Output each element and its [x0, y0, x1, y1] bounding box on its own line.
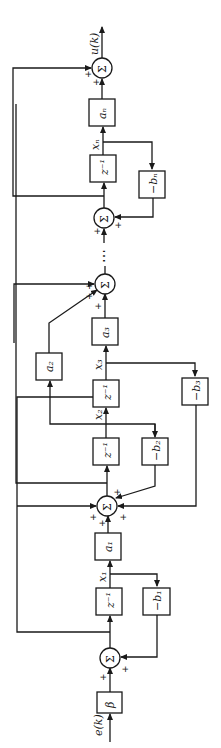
input-label: e(k)	[92, 714, 105, 736]
state-x1-label: x₁	[96, 571, 109, 582]
delay-3-label: z⁻¹	[101, 384, 114, 401]
minus-b2-label: −b₂	[150, 440, 163, 461]
plus-sign: +	[92, 227, 102, 235]
plus-sign: +	[97, 519, 107, 527]
minus-b1-label: −b₁	[151, 590, 164, 611]
output-section: Σ + + u(k)	[83, 27, 112, 86]
plus-sign: +	[84, 292, 94, 300]
state-x3-label: x₃	[92, 359, 105, 370]
x3-to-b3-line	[106, 363, 195, 376]
plus-sign: +	[83, 70, 93, 78]
stage-n: Σ + + z⁻¹ −bₙ xₙ aₙ	[13, 68, 165, 235]
delay-n-label: z⁻¹	[98, 159, 111, 176]
a1-label: a₁	[102, 541, 115, 552]
minus-bn-label: −bₙ	[147, 173, 160, 194]
minus-b3-label: −b₃	[190, 380, 203, 401]
an-label: aₙ	[96, 108, 109, 119]
bypass-into-sum3	[14, 284, 94, 343]
delay-1-label: z⁻¹	[104, 592, 117, 609]
x1-to-b1-line	[110, 574, 157, 586]
plus-sign: +	[112, 488, 122, 496]
summer-output-symbol: Σ	[96, 65, 109, 73]
summer-3-symbol: Σ	[99, 281, 112, 289]
plus-sign: +	[118, 513, 128, 521]
output-label: u(k)	[88, 33, 101, 55]
state-xn-label: xₙ	[89, 139, 102, 150]
plus-sign: +	[98, 673, 108, 681]
beta-label: β	[104, 702, 117, 709]
plus-sign: +	[113, 221, 123, 229]
plus-sign: +	[120, 665, 130, 673]
bn-feedback-line	[115, 198, 153, 217]
stage-2: Σ + + + + z⁻¹ −b₂ x₂ a₂ z⁻¹ −b₃ x₃ a₃	[16, 290, 208, 527]
delay-2-label: z⁻¹	[101, 442, 114, 459]
ellipsis: ⋯	[96, 248, 112, 263]
plus-sign: +	[93, 302, 103, 310]
plus-sign: +	[91, 78, 101, 86]
summer-input-symbol: Σ	[104, 655, 117, 663]
state-x2-label: x₂	[92, 409, 105, 420]
a2-label: a₂	[43, 361, 56, 372]
b1-feedback-line	[121, 614, 157, 657]
summer-2-symbol: Σ	[101, 503, 114, 511]
a3-label: a₃	[99, 327, 112, 338]
block-diagram: e(k) β Σ + + z⁻¹ −b₁ x₁ a₁ Σ + + +	[0, 0, 221, 748]
summer-n-symbol: Σ	[98, 215, 111, 223]
